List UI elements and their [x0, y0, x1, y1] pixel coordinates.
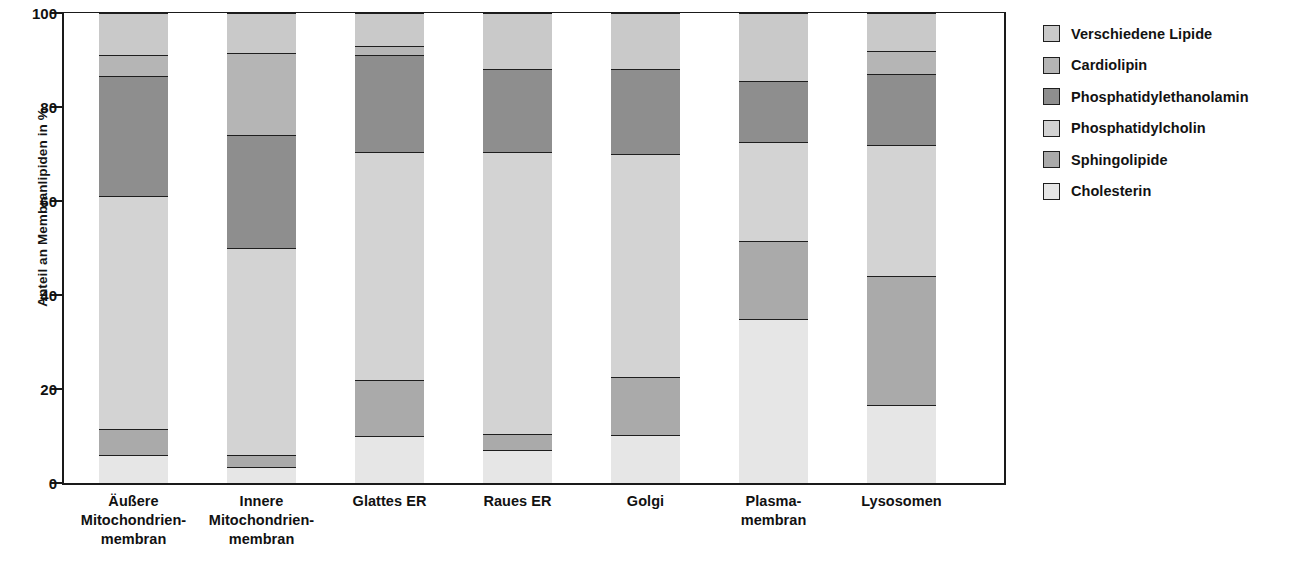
bar-segment-phosphatidylcholin: [867, 145, 935, 277]
legend-label: Verschiedene Lipide: [1071, 26, 1212, 42]
bar-segment-phosphatidylcholin: [611, 154, 679, 377]
bar-segment-phosphatidylethanolamin: [611, 69, 679, 154]
bar-5: [612, 13, 679, 483]
bar-segment-cardiolipin: [99, 55, 167, 76]
bar-segment-cholesterin: [867, 405, 935, 483]
bar-segment-phosphatidylethanolamin: [739, 81, 807, 142]
bar-segment-phosphatidylethanolamin: [227, 135, 295, 248]
y-tick-label: 80: [40, 99, 57, 116]
legend-label: Cholesterin: [1071, 183, 1151, 199]
legend-swatch-icon: [1043, 25, 1060, 42]
legend-label: Phosphatidylcholin: [1071, 120, 1206, 136]
bar-segment-cholesterin: [739, 319, 807, 484]
chart-figure: Anteil an Membranlipiden in % 0204060801…: [0, 0, 1294, 570]
bar-segment-verschiedene-lipide: [867, 13, 935, 51]
bar-3: [356, 13, 423, 483]
x-axis-label-line: membran: [694, 511, 854, 530]
bar-2: [228, 13, 295, 483]
x-axis-label-7: Lysosomen: [822, 492, 982, 511]
bar-6: [740, 13, 807, 483]
x-axis-label-line: Lysosomen: [822, 492, 982, 511]
bar-segment-phosphatidylcholin: [227, 248, 295, 455]
bar-segment-cardiolipin: [867, 51, 935, 75]
legend-item-6: Cholesterin: [1043, 176, 1293, 208]
y-tick-label: 0: [49, 475, 57, 492]
legend-swatch-icon: [1043, 120, 1060, 137]
legend-item-3: Phosphatidylethanolamin: [1043, 81, 1293, 113]
bar-segment-sphingolipide: [227, 455, 295, 467]
y-tick-label: 60: [40, 193, 57, 210]
bar-segment-sphingolipide: [739, 241, 807, 319]
chart-legend: Verschiedene LipideCardiolipinPhosphatid…: [1043, 18, 1293, 207]
bar-1: [100, 13, 167, 483]
legend-item-1: Verschiedene Lipide: [1043, 18, 1293, 50]
legend-item-2: Cardiolipin: [1043, 50, 1293, 82]
bar-segment-phosphatidylethanolamin: [99, 76, 167, 196]
bar-7: [868, 13, 935, 483]
bar-segment-cholesterin: [227, 467, 295, 483]
legend-label: Phosphatidylethanolamin: [1071, 89, 1249, 105]
bar-segment-verschiedene-lipide: [99, 13, 167, 55]
plot-area: 020406080100: [62, 13, 1006, 483]
bar-segment-cholesterin: [483, 450, 551, 483]
axis-right-line: [1004, 12, 1006, 484]
bar-segment-verschiedene-lipide: [355, 13, 423, 46]
bar-segment-sphingolipide: [99, 429, 167, 455]
bar-segment-phosphatidylcholin: [355, 152, 423, 380]
x-axis-line: [62, 483, 1006, 485]
bar-segment-verschiedene-lipide: [227, 13, 295, 53]
bar-segment-sphingolipide: [611, 377, 679, 434]
bar-segment-verschiedene-lipide: [739, 13, 807, 81]
y-tick-label: 40: [40, 287, 57, 304]
legend-label: Cardiolipin: [1071, 57, 1147, 73]
bar-segment-phosphatidylcholin: [99, 196, 167, 429]
bar-segment-phosphatidylcholin: [483, 152, 551, 434]
bar-segment-phosphatidylethanolamin: [483, 69, 551, 151]
bar-segment-phosphatidylethanolamin: [355, 55, 423, 151]
x-axis-label-line: membran: [182, 530, 342, 549]
y-tick-label: 100: [32, 5, 57, 22]
y-tick-label: 20: [40, 381, 57, 398]
y-axis-line: [62, 12, 64, 484]
bar-segment-verschiedene-lipide: [611, 13, 679, 69]
bar-segment-cholesterin: [611, 435, 679, 483]
legend-swatch-icon: [1043, 151, 1060, 168]
legend-label: Sphingolipide: [1071, 152, 1168, 168]
legend-item-5: Sphingolipide: [1043, 144, 1293, 176]
legend-swatch-icon: [1043, 183, 1060, 200]
bar-segment-cholesterin: [355, 436, 423, 483]
bar-segment-phosphatidylcholin: [739, 142, 807, 241]
bar-segment-sphingolipide: [867, 276, 935, 405]
bar-segment-cardiolipin: [355, 46, 423, 55]
bar-segment-verschiedene-lipide: [483, 13, 551, 69]
bar-segment-phosphatidylethanolamin: [867, 74, 935, 145]
bar-segment-sphingolipide: [483, 434, 551, 450]
bar-segment-cardiolipin: [227, 53, 295, 135]
legend-item-4: Phosphatidylcholin: [1043, 113, 1293, 145]
bar-4: [484, 13, 551, 483]
bar-segment-cholesterin: [99, 455, 167, 483]
bar-segment-sphingolipide: [355, 380, 423, 436]
legend-swatch-icon: [1043, 57, 1060, 74]
legend-swatch-icon: [1043, 88, 1060, 105]
x-axis-label-line: Mitochondrien-: [182, 511, 342, 530]
